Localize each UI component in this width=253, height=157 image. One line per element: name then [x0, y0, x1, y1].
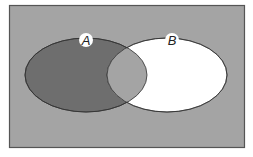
set-b-label: B [168, 33, 177, 48]
venn-diagram: A B [0, 0, 253, 157]
set-a-label: A [81, 33, 91, 48]
